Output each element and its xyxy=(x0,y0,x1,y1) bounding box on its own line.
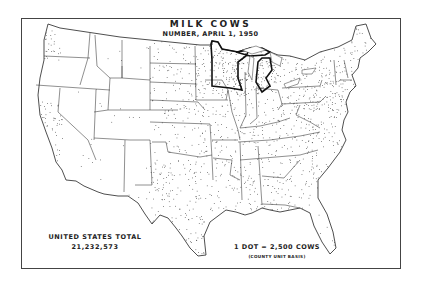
map-subtitle: NUMBER, APRIL 1, 1950 xyxy=(0,30,421,38)
us-outline xyxy=(38,24,376,256)
state-boundaries xyxy=(36,33,352,208)
dot-layer xyxy=(36,22,379,258)
dot-key-label: 1 DOT = 2,500 COWS xyxy=(222,243,332,252)
us-total-legend: UNITED STATES TOTAL 21,232,573 xyxy=(40,232,150,252)
dot-key-legend: 1 DOT = 2,500 COWS (COUNTY UNIT BASIS) xyxy=(222,243,332,261)
great-lakes xyxy=(242,46,316,88)
total-value: 21,232,573 xyxy=(40,242,150,252)
map-title: MILK COWS xyxy=(0,19,421,29)
total-label: UNITED STATES TOTAL xyxy=(40,232,150,242)
dot-key-note: (COUNTY UNIT BASIS) xyxy=(222,252,332,261)
